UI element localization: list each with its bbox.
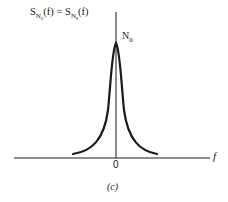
figure-caption: (c) xyxy=(107,181,118,192)
origin-tick-label: 0 xyxy=(113,159,119,170)
x-axis-label: f xyxy=(213,150,216,162)
spectrum-curve xyxy=(73,43,157,154)
y-axis-label: SNc(f) = SNs(f) xyxy=(30,6,89,21)
peak-label: N0 xyxy=(122,30,133,44)
spectrum-plot xyxy=(0,0,228,202)
